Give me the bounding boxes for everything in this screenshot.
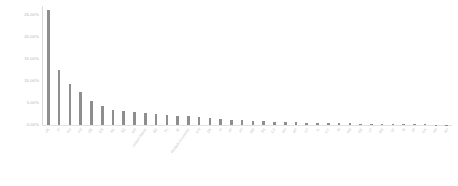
bar-slot: [388, 6, 399, 125]
bar[interactable]: [230, 120, 233, 125]
bar[interactable]: [166, 115, 169, 125]
x-axis-tick-label: FI: [219, 128, 224, 133]
x-axis-label-slot: JP: [409, 127, 420, 186]
bar[interactable]: [69, 84, 72, 125]
bar[interactable]: [381, 124, 384, 125]
bar-slot: [334, 6, 345, 125]
x-axis-label-slot: UK: [43, 127, 54, 186]
bar[interactable]: [284, 122, 287, 125]
bar[interactable]: [219, 119, 222, 125]
bar-slot: [108, 6, 119, 125]
bar[interactable]: [144, 113, 147, 125]
x-axis-label-slot: LV: [388, 127, 399, 186]
x-axis-label-slot: MT: [291, 127, 302, 186]
x-axis-tick-label: ES: [99, 128, 105, 134]
x-axis-tick-label: LU: [304, 128, 310, 134]
bar[interactable]: [133, 112, 136, 125]
bar[interactable]: [90, 101, 93, 125]
bar[interactable]: [316, 123, 319, 125]
bar[interactable]: [435, 125, 438, 126]
x-axis-label-slot: RU: [65, 127, 76, 186]
x-axis-tick-label: AT: [229, 128, 234, 134]
bar[interactable]: [445, 125, 448, 126]
x-axis-tick-label: CH: [196, 128, 202, 134]
x-axis-label-slot: LU: [301, 127, 312, 186]
x-axis-tick-label: PT: [239, 128, 245, 134]
bar[interactable]: [209, 118, 212, 125]
x-axis-label-slot: BG: [377, 127, 388, 186]
x-axis-label-slot: IS: [398, 127, 409, 186]
x-axis-label-slot: Multiple Countries: [183, 127, 194, 186]
bar-slot: [86, 6, 97, 125]
bar[interactable]: [79, 92, 82, 125]
bar[interactable]: [295, 122, 298, 125]
x-axis-label-slot: AT: [226, 127, 237, 186]
bar[interactable]: [413, 124, 416, 125]
bar-slot: [43, 6, 54, 125]
x-axis-tick-label: CY: [325, 128, 331, 134]
x-axis-label-slot: PL: [161, 127, 172, 186]
bar[interactable]: [122, 111, 125, 125]
x-axis-label-slot: EE: [355, 127, 366, 186]
bar[interactable]: [392, 124, 395, 125]
bar-chart: 0.00%5.00%10.00%15.00%20.00%25.00% UKITR…: [0, 0, 458, 186]
x-axis-label-slot: IT: [54, 127, 65, 186]
x-axis-tick-label: AU: [444, 128, 450, 134]
bar[interactable]: [273, 122, 276, 125]
bar[interactable]: [176, 116, 179, 125]
bar-slot: [237, 6, 248, 125]
bar[interactable]: [359, 124, 362, 125]
x-axis-tick-label: DE: [89, 128, 95, 134]
bar[interactable]: [112, 110, 115, 125]
bar[interactable]: [327, 123, 330, 125]
bar-slot: [291, 6, 302, 125]
y-axis: 0.00%5.00%10.00%15.00%20.00%25.00%: [0, 0, 39, 186]
x-axis-tick-label: NO: [250, 128, 256, 135]
bar-slot: [226, 6, 237, 125]
x-axis-tick-label: MT: [293, 128, 299, 134]
x-axis-tick-label: LT: [369, 128, 374, 133]
bar[interactable]: [252, 121, 255, 125]
x-axis-line: [42, 125, 452, 126]
bar-slot: [441, 6, 452, 125]
bar[interactable]: [349, 123, 352, 125]
bar-slot: [312, 6, 323, 125]
x-axis-label-slot: SI: [334, 127, 345, 186]
bar[interactable]: [47, 10, 50, 125]
x-axis-tick-label: SE: [121, 128, 127, 134]
bar[interactable]: [262, 121, 265, 125]
bar-slot: [355, 6, 366, 125]
x-axis-label-slot: NL: [108, 127, 119, 186]
bar-slot: [248, 6, 259, 125]
bar[interactable]: [155, 114, 158, 125]
x-axis-tick-label: JP: [412, 128, 417, 134]
bar-slot: [65, 6, 76, 125]
x-axis-label-slot: PT: [237, 127, 248, 186]
x-axis-label-slot: FI: [215, 127, 226, 186]
x-axis-label-slot: IL: [312, 127, 323, 186]
bar[interactable]: [305, 123, 308, 125]
x-axis-label-slot: RO: [344, 127, 355, 186]
bar-slot: [161, 6, 172, 125]
x-axis-tick-label: NL: [110, 128, 116, 134]
bar-slot: [301, 6, 312, 125]
bar-slot: [269, 6, 280, 125]
bar[interactable]: [402, 124, 405, 125]
bar[interactable]: [338, 123, 341, 125]
bar[interactable]: [241, 120, 244, 125]
bar[interactable]: [424, 124, 427, 125]
bar[interactable]: [187, 116, 190, 125]
bar-slot: [323, 6, 334, 125]
x-axis-label-slot: CY: [323, 127, 334, 186]
bar-slot: [420, 6, 431, 125]
bar-slot: [344, 6, 355, 125]
x-axis-tick-label: RU: [67, 128, 73, 134]
x-axis-tick-label: HU: [282, 128, 288, 134]
x-axis-label-slot: DE: [86, 127, 97, 186]
x-axis-label-slot: United States: [140, 127, 151, 186]
y-axis-tick-label: 25.00%: [24, 13, 39, 17]
bar[interactable]: [58, 70, 61, 125]
bar[interactable]: [198, 117, 201, 125]
bar[interactable]: [370, 124, 373, 125]
bar[interactable]: [101, 106, 104, 125]
